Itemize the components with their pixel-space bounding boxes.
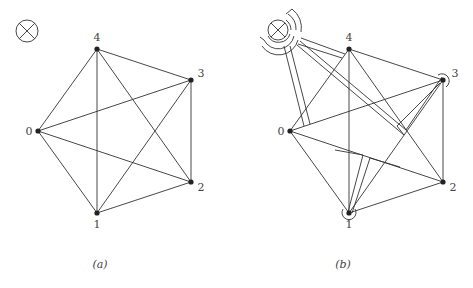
node-label-4: 4 — [94, 31, 101, 44]
edge-0-3 — [38, 80, 191, 131]
node-label-2: 2 — [450, 181, 457, 194]
node-label-0: 0 — [278, 125, 285, 138]
caption-a: (a) — [92, 258, 107, 271]
edge-0-1 — [38, 131, 97, 213]
edge-0-1 — [290, 131, 349, 213]
edge-1-2 — [349, 182, 443, 213]
edge-3-4 — [349, 49, 443, 80]
edge-2-4 — [97, 49, 191, 182]
tube-to-node-4 — [298, 38, 345, 58]
edge-3-4 — [97, 49, 191, 80]
node-label-1: 1 — [94, 218, 101, 231]
node-label-3: 3 — [198, 67, 205, 80]
edge-0-3 — [290, 80, 443, 131]
edge-0-4 — [290, 49, 349, 131]
panel-a: 01234 (a) — [16, 20, 205, 271]
node-4 — [346, 46, 351, 51]
node-label-4: 4 — [346, 31, 353, 44]
edge-1-3 — [97, 80, 191, 213]
node-label-0: 0 — [26, 125, 33, 138]
edge-0-2 — [290, 131, 443, 182]
tube-to-node-1 — [335, 150, 400, 213]
node-4 — [94, 46, 99, 51]
diagram: 01234 (a) — [0, 0, 473, 288]
node-label-3: 3 — [452, 67, 459, 80]
node-2 — [440, 179, 445, 184]
node-3 — [440, 77, 445, 82]
edge-1-3 — [349, 80, 443, 213]
node-0 — [287, 128, 292, 133]
node-0 — [35, 128, 40, 133]
node-2 — [188, 179, 193, 184]
node-1 — [94, 210, 99, 215]
node-label-1: 1 — [346, 218, 353, 231]
edge-2-4 — [349, 49, 443, 182]
node-1 — [346, 210, 351, 215]
circle-cross-icon — [16, 20, 38, 42]
edge-0-4 — [38, 49, 97, 131]
edge-0-2 — [38, 131, 191, 182]
node-label-2: 2 — [198, 181, 205, 194]
node-3 — [188, 77, 193, 82]
circle-cross-icon — [260, 9, 301, 55]
panel-b: 01234 (b) — [260, 9, 459, 271]
tube-to-node-0 — [284, 46, 310, 126]
edge-1-2 — [97, 182, 191, 213]
caption-b: (b) — [335, 258, 351, 271]
